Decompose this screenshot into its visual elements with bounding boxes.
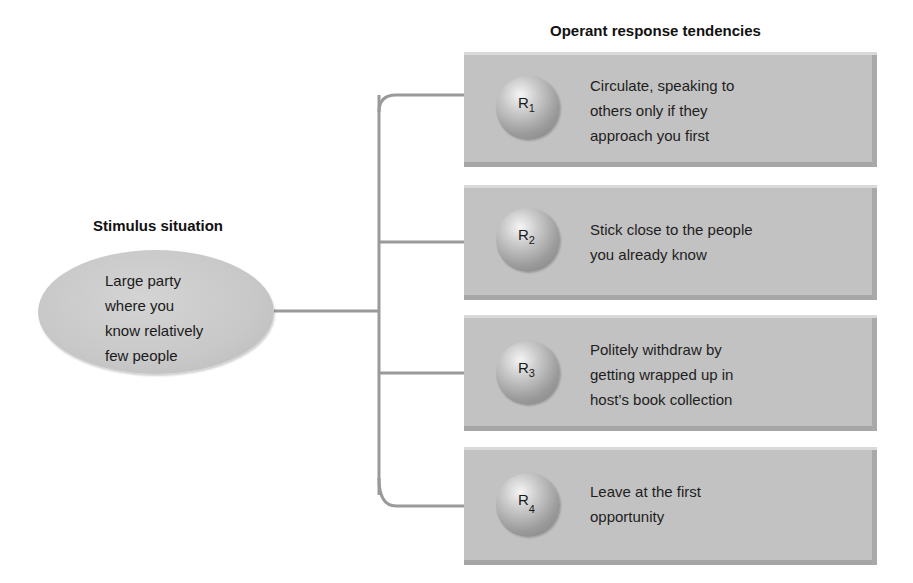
response-text-3: Politely withdraw by getting wrapped up … xyxy=(590,337,733,412)
response-label-2: R2 xyxy=(518,226,535,246)
response-line: approach you first xyxy=(590,123,734,148)
stimulus-line: know relatively xyxy=(105,318,203,343)
stimulus-line: where you xyxy=(105,293,203,318)
response-line: getting wrapped up in xyxy=(590,362,733,387)
response-line: opportunity xyxy=(590,504,701,529)
stimulus-line: few people xyxy=(105,343,203,368)
response-line: Leave at the first xyxy=(590,479,701,504)
stimulus-text: Large party where you know relatively fe… xyxy=(105,268,203,368)
response-node-3: R3 xyxy=(496,341,560,405)
response-label-3: R3 xyxy=(518,359,535,379)
stimulus-heading: Stimulus situation xyxy=(93,217,223,234)
response-line: Circulate, speaking to xyxy=(590,73,734,98)
response-text-2: Stick close to the people you already kn… xyxy=(590,217,753,267)
response-node-1: R1 xyxy=(496,76,560,140)
response-label-4: R4 xyxy=(518,491,535,515)
response-text-4: Leave at the first opportunity xyxy=(590,479,701,529)
response-text-1: Circulate, speaking to others only if th… xyxy=(590,73,734,148)
response-node-2: R2 xyxy=(496,208,560,272)
stimulus-line: Large party xyxy=(105,268,203,293)
response-line: Politely withdraw by xyxy=(590,337,733,362)
response-node-4: R4 xyxy=(496,473,560,537)
responses-heading: Operant response tendencies xyxy=(550,22,761,39)
response-label-1: R1 xyxy=(518,94,535,114)
response-line: you already know xyxy=(590,242,753,267)
response-line: others only if they xyxy=(590,98,734,123)
response-line: host’s book collection xyxy=(590,387,733,412)
response-line: Stick close to the people xyxy=(590,217,753,242)
